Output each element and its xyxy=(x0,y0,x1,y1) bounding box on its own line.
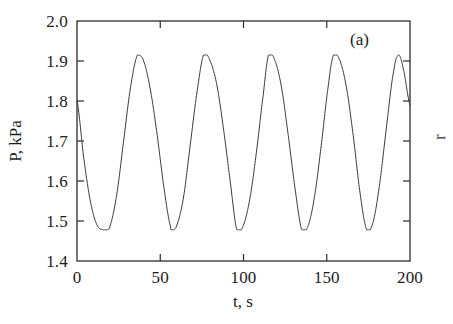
y-tick-label: 1.4 xyxy=(20,253,68,270)
y-tick-label: 1.5 xyxy=(20,213,68,230)
x-tick-label: 100 xyxy=(230,269,256,286)
plot-canvas xyxy=(0,0,453,324)
y-axis-title: P, kPa xyxy=(6,120,26,162)
y-tick-label: 1.9 xyxy=(20,53,68,70)
y-tick-label: 2.0 xyxy=(20,13,68,30)
edge-cropped-glyph: r xyxy=(431,134,449,139)
x-tick-label: 200 xyxy=(397,269,423,286)
x-tick-label: 0 xyxy=(73,269,82,286)
figure-panel-a: 1.41.51.61.71.81.92.0 050100150200 P, kP… xyxy=(0,0,453,324)
y-tick-label: 1.8 xyxy=(20,93,68,110)
x-tick-label: 150 xyxy=(314,269,340,286)
y-tick-label: 1.7 xyxy=(20,133,68,150)
x-tick-label: 50 xyxy=(152,269,169,286)
y-axis-title-text: P, kPa xyxy=(6,120,25,162)
y-tick-label: 1.6 xyxy=(20,173,68,190)
panel-label: (a) xyxy=(350,30,369,50)
figure-background xyxy=(0,0,453,324)
x-axis-title: t, s xyxy=(233,292,253,312)
